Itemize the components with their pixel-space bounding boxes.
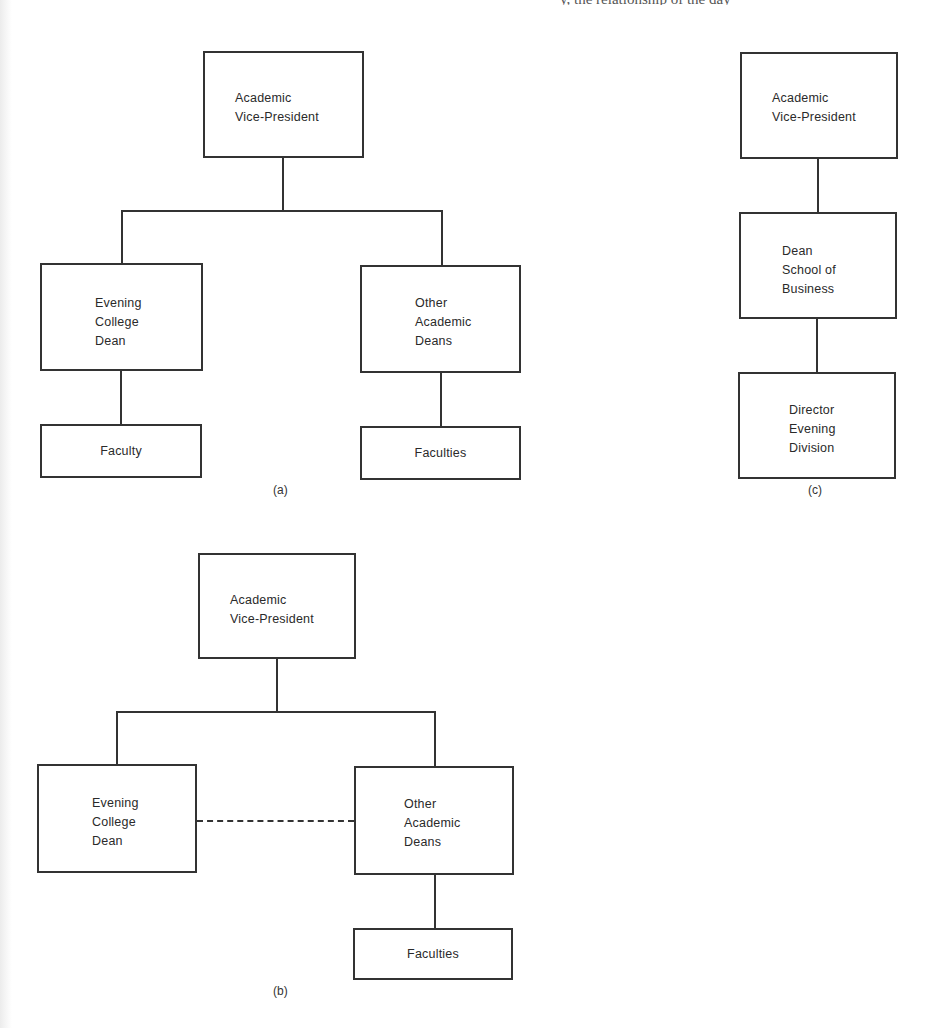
caption-a: (a) bbox=[273, 483, 288, 497]
node-label: Other Academic Deans bbox=[415, 294, 471, 351]
node-a-academic-vp: Academic Vice-President bbox=[203, 51, 364, 158]
connector bbox=[121, 210, 443, 212]
connector bbox=[434, 875, 436, 929]
connector bbox=[282, 158, 284, 212]
node-b-evening-college-dean: Evening College Dean bbox=[37, 764, 197, 873]
caption-b: (b) bbox=[273, 984, 288, 998]
page-edge-shadow bbox=[0, 0, 12, 1028]
node-label: Dean School of Business bbox=[782, 242, 836, 299]
node-c-academic-vp: Academic Vice-President bbox=[740, 52, 898, 159]
connector bbox=[440, 373, 442, 427]
node-a-faculties: Faculties bbox=[360, 426, 521, 480]
caption-c: (c) bbox=[808, 483, 822, 497]
node-b-academic-vp: Academic Vice-President bbox=[198, 553, 356, 659]
node-label: Faculties bbox=[362, 444, 519, 463]
node-b-other-academic-deans: Other Academic Deans bbox=[354, 766, 514, 875]
node-a-evening-college-dean: Evening College Dean bbox=[40, 263, 203, 371]
connector bbox=[441, 210, 443, 265]
node-b-faculties: Faculties bbox=[353, 928, 513, 980]
node-label: Faculty bbox=[42, 442, 200, 461]
connector bbox=[120, 371, 122, 425]
connector bbox=[816, 319, 818, 373]
node-c-dean-school-of-business: Dean School of Business bbox=[739, 212, 897, 319]
connector bbox=[434, 711, 436, 767]
node-label: Faculties bbox=[355, 945, 511, 964]
connector bbox=[817, 159, 819, 213]
node-label: Academic Vice-President bbox=[230, 591, 314, 629]
connector bbox=[116, 711, 436, 713]
connector bbox=[276, 659, 278, 713]
connector bbox=[116, 711, 118, 765]
node-label: Director Evening Division bbox=[789, 401, 836, 458]
dashed-connector bbox=[197, 820, 354, 822]
cropped-header-text: y, the relationship of the day bbox=[560, 0, 933, 5]
node-label: Evening College Dean bbox=[95, 294, 142, 351]
node-label: Evening College Dean bbox=[92, 794, 139, 851]
node-label: Academic Vice-President bbox=[772, 89, 856, 127]
connector bbox=[121, 210, 123, 263]
node-label: Other Academic Deans bbox=[404, 795, 460, 852]
node-a-other-academic-deans: Other Academic Deans bbox=[360, 265, 521, 373]
node-a-faculty: Faculty bbox=[40, 424, 202, 478]
node-c-director-evening-division: Director Evening Division bbox=[738, 372, 896, 479]
node-label: Academic Vice-President bbox=[235, 89, 319, 127]
